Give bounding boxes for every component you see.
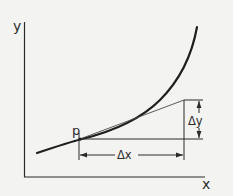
delta-y-label: Δy	[188, 114, 203, 128]
tangent-slope-diagram: y x p Δx Δy	[0, 0, 233, 196]
diagram-canvas: y x p Δx Δy	[0, 0, 233, 196]
delta-x-label: Δx	[117, 148, 132, 162]
increasing-convex-curve	[37, 27, 197, 153]
tangent-line	[80, 100, 184, 139]
x-axis-label: x	[202, 176, 210, 192]
point-p-label: p	[72, 123, 80, 138]
y-axis-label: y	[13, 18, 21, 34]
